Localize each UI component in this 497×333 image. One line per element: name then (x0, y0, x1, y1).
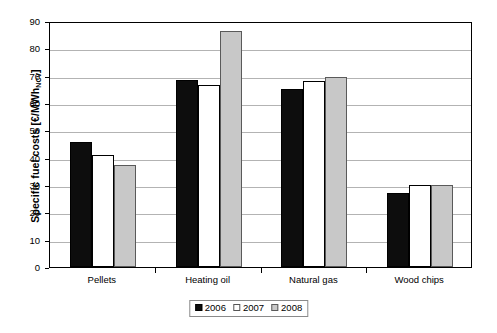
y-tick-label: 90 (0, 17, 40, 27)
legend: 2006 2007 2008 (189, 300, 308, 317)
x-axis-tick (155, 268, 156, 273)
bar-wood-chips-2007 (409, 185, 431, 267)
y-tick-label: 0 (0, 263, 40, 273)
plot-area (49, 22, 472, 268)
gridline (50, 132, 471, 133)
bar-heating-oil-2006 (176, 80, 198, 267)
bar-wood-chips-2006 (387, 193, 409, 267)
bar-pellets-2008 (114, 165, 136, 268)
x-axis-tick (366, 268, 367, 273)
y-tick-label: 60 (0, 99, 40, 109)
bar-pellets-2007 (92, 155, 114, 267)
y-tick-mark (45, 268, 49, 269)
legend-label-2006: 2006 (205, 303, 226, 313)
gridline (50, 78, 471, 79)
y-tick-label: 20 (0, 208, 40, 218)
legend-item-2006: 2006 (195, 303, 226, 313)
bar-natural-gas-2006 (281, 89, 303, 267)
gridline (50, 50, 471, 51)
y-tick-label: 50 (0, 126, 40, 136)
bar-heating-oil-2007 (198, 85, 220, 267)
x-axis-label-wood-chips: Wood chips (366, 274, 472, 285)
y-tick-label: 80 (0, 44, 40, 54)
bar-pellets-2006 (70, 142, 92, 267)
bar-heating-oil-2008 (220, 31, 242, 267)
legend-swatch-icon-2007 (233, 304, 240, 311)
y-tick-label: 70 (0, 72, 40, 82)
x-axis-label-heating-oil: Heating oil (155, 274, 261, 285)
bar-natural-gas-2008 (325, 77, 347, 267)
bar-natural-gas-2007 (303, 81, 325, 267)
y-tick-label: 40 (0, 154, 40, 164)
x-axis-tick (261, 268, 262, 273)
legend-swatch-icon-2008 (271, 304, 278, 311)
legend-item-2007: 2007 (233, 303, 264, 313)
bar-chart: Specific fuel costs [€/MWhNCV] 010203040… (0, 0, 497, 333)
legend-swatch-icon-2006 (195, 304, 202, 311)
y-tick-label: 10 (0, 236, 40, 246)
bar-wood-chips-2008 (431, 185, 453, 267)
legend-label-2008: 2008 (281, 303, 302, 313)
y-tick-label: 30 (0, 181, 40, 191)
legend-label-2007: 2007 (243, 303, 264, 313)
x-axis-label-pellets: Pellets (49, 274, 155, 285)
x-axis-label-natural-gas: Natural gas (261, 274, 367, 285)
gridline (50, 105, 471, 106)
legend-item-2008: 2008 (271, 303, 302, 313)
